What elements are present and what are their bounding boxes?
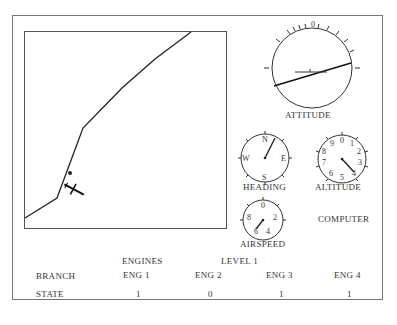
horizon-line: [274, 63, 351, 86]
waypoint-dot: [68, 171, 72, 175]
branch-eng2: ENG 2: [195, 270, 222, 280]
state-eng2[interactable]: 0: [208, 289, 213, 299]
svg-text:8: 8: [247, 213, 251, 222]
altitude-indicator: 0 1 2 3 4 5 6 7 8 9 ALTITUDE: [307, 126, 377, 196]
svg-text:4: 4: [266, 227, 270, 236]
svg-text:6: 6: [329, 169, 333, 178]
svg-text:9: 9: [330, 139, 334, 148]
level-label: LEVEL 1: [221, 256, 258, 266]
heading-label: HEADING: [243, 182, 286, 192]
computer-label: COMPUTER: [318, 214, 369, 224]
attitude-label: ATTITUDE: [285, 110, 331, 120]
svg-text:3: 3: [358, 158, 362, 167]
branch-eng1: ENG 1: [123, 270, 150, 280]
svg-text:0: 0: [261, 201, 265, 210]
branch-row-header: BRANCH: [36, 271, 75, 281]
svg-text:2: 2: [273, 213, 277, 222]
branch-eng3: ENG 3: [266, 270, 293, 280]
svg-text:8: 8: [322, 147, 326, 156]
svg-text:0: 0: [340, 136, 344, 145]
svg-text:7: 7: [322, 158, 326, 167]
state-eng4[interactable]: 1: [347, 289, 352, 299]
airspeed-needle: [256, 220, 263, 229]
flight-path: [25, 32, 228, 230]
attitude-indicator: 0 ATTITUDE: [255, 14, 385, 124]
svg-text:2: 2: [357, 147, 361, 156]
airspeed-label: AIRSPEED: [240, 239, 285, 249]
svg-text:E: E: [281, 154, 286, 163]
svg-text:S: S: [262, 173, 266, 182]
svg-text:W: W: [242, 154, 250, 163]
aircraft-icon: [62, 179, 87, 200]
flight-path-map[interactable]: [24, 31, 227, 229]
attitude-zero-mark: 0: [311, 20, 315, 29]
state-eng1[interactable]: 1: [136, 289, 141, 299]
altitude-needle: [342, 159, 354, 172]
branch-eng4: ENG 4: [334, 270, 361, 280]
svg-text:1: 1: [350, 139, 354, 148]
airspeed-indicator: 0 2 4 6 8 AIRSPEED: [236, 196, 296, 256]
svg-text:N: N: [262, 135, 268, 144]
heading-indicator: N E S W HEADING: [232, 126, 302, 196]
engines-section-label: ENGINES: [122, 256, 163, 266]
state-eng3[interactable]: 1: [279, 289, 284, 299]
state-row-header: STATE: [36, 289, 64, 299]
altitude-label: ALTITUDE: [315, 182, 361, 192]
svg-text:5: 5: [340, 173, 344, 182]
